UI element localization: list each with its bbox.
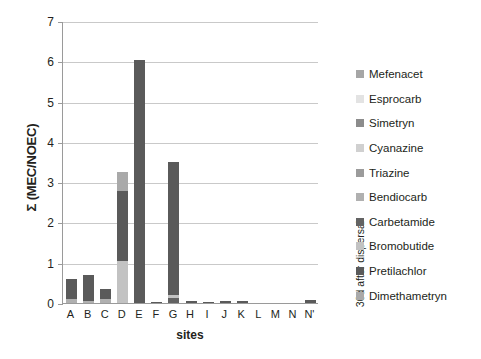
bar-stack[interactable]: [220, 301, 231, 303]
legend-label: Dimethametryn: [369, 290, 447, 302]
bar-stack[interactable]: [134, 60, 145, 303]
legend-item[interactable]: Bendiocarb: [356, 185, 481, 210]
bar-stack[interactable]: [305, 300, 316, 303]
bar-segment[interactable]: [134, 60, 145, 303]
legend-item[interactable]: Esprocarb: [356, 87, 481, 112]
bar-segment[interactable]: [66, 299, 77, 303]
legend-item[interactable]: Carbetamide: [356, 210, 481, 235]
bar-stack[interactable]: [168, 162, 179, 303]
legend-label: Triazine: [369, 167, 409, 179]
y-tick-label: 7: [32, 17, 54, 27]
bar-stack[interactable]: [100, 289, 111, 303]
bar-stack[interactable]: [83, 275, 94, 303]
bar-stack[interactable]: [237, 301, 248, 303]
legend-label: Bromobutide: [369, 240, 434, 252]
bar-segment[interactable]: [117, 191, 128, 260]
legend-item[interactable]: Cyanazine: [356, 136, 481, 161]
chart-figure: Σ (MEC/NOEC) 01234567 ABCDEFGHIJKLMNN' s…: [0, 0, 481, 359]
legend-swatch-icon: [356, 242, 364, 250]
legend-swatch-icon: [356, 292, 364, 300]
bar-stack[interactable]: [186, 301, 197, 303]
legend-label: Pretilachlor: [369, 265, 427, 277]
legend-label: Mefenacet: [369, 68, 423, 80]
bar-segment[interactable]: [83, 275, 94, 301]
y-tick-label: 5: [32, 98, 54, 108]
bar-segment[interactable]: [186, 301, 197, 303]
bar-stack[interactable]: [151, 302, 162, 303]
y-tick-label: 0: [32, 299, 54, 309]
bar-segment[interactable]: [66, 279, 77, 300]
legend-item[interactable]: Mefenacet: [356, 62, 481, 87]
bar-segment[interactable]: [100, 299, 111, 303]
legend-swatch-icon: [356, 70, 364, 78]
legend-item[interactable]: Simetryn: [356, 111, 481, 136]
legend-swatch-icon: [356, 267, 364, 275]
bar-segment[interactable]: [305, 300, 316, 303]
bar-series-group: [63, 22, 318, 303]
bar-segment[interactable]: [117, 172, 128, 191]
y-tick-label: 4: [32, 138, 54, 148]
bar-segment[interactable]: [83, 301, 94, 303]
legend-swatch-icon: [356, 218, 364, 226]
bar-stack[interactable]: [203, 302, 214, 303]
y-tick-label: 1: [32, 259, 54, 269]
x-tick-label: N': [297, 308, 321, 320]
x-axis-title: sites: [62, 328, 318, 342]
legend-label: Carbetamide: [369, 216, 435, 228]
bar-stack[interactable]: [66, 279, 77, 303]
bar-segment[interactable]: [168, 298, 179, 303]
legend-item[interactable]: Pretilachlor: [356, 259, 481, 284]
y-axis-title: Σ (MEC/NOEC): [24, 53, 39, 283]
y-tick-label: 6: [32, 57, 54, 67]
y-tick-label: 2: [32, 218, 54, 228]
legend-swatch-icon: [356, 169, 364, 177]
legend-label: Esprocarb: [369, 93, 421, 105]
bar-segment[interactable]: [100, 289, 111, 299]
bar-segment[interactable]: [237, 301, 248, 303]
chart-legend: MefenacetEsprocarbSimetrynCyanazineTriaz…: [356, 62, 481, 308]
bar-segment[interactable]: [117, 261, 128, 303]
y-tick-label: 3: [32, 178, 54, 188]
bar-segment[interactable]: [220, 301, 231, 303]
plot-area: [62, 22, 318, 304]
bar-segment[interactable]: [203, 302, 214, 303]
legend-item[interactable]: Dimethametryn: [356, 283, 481, 308]
legend-label: Cyanazine: [369, 142, 423, 154]
legend-item[interactable]: Bromobutide: [356, 234, 481, 259]
bar-segment[interactable]: [168, 162, 179, 295]
bar-segment[interactable]: [151, 302, 162, 303]
bar-stack[interactable]: [117, 172, 128, 303]
legend-swatch-icon: [356, 119, 364, 127]
legend-label: Simetryn: [369, 117, 414, 129]
legend-swatch-icon: [356, 95, 364, 103]
y-tick-mark: [58, 304, 63, 305]
legend-swatch-icon: [356, 193, 364, 201]
legend-item[interactable]: Triazine: [356, 160, 481, 185]
legend-label: Bendiocarb: [369, 191, 427, 203]
legend-swatch-icon: [356, 144, 364, 152]
